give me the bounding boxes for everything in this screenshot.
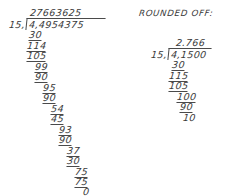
left-quotient: 27663625	[30, 8, 83, 18]
right-divisor: 15,	[151, 50, 168, 60]
right-step-5: 10	[183, 113, 197, 123]
right-quotient: 2.766	[176, 38, 206, 48]
rounded-off-heading: ROUNDED OFF:	[139, 9, 214, 18]
worksheet-canvas: 27663625 15, 4,4954375 30 114 105 99 90 …	[0, 0, 225, 196]
left-divisor: 15,	[9, 20, 26, 30]
left-step-15: 0	[83, 187, 90, 196]
